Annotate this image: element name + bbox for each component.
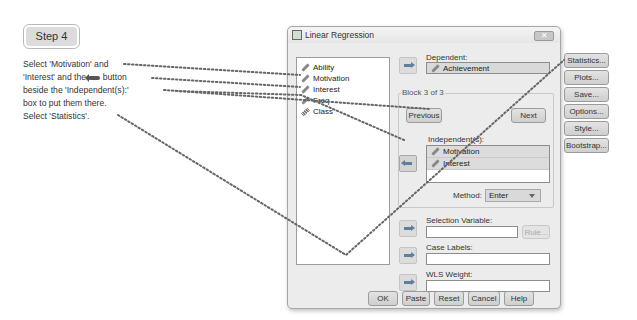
paste-button[interactable]: Paste xyxy=(402,291,430,306)
rule-button[interactable]: Rule... xyxy=(522,225,550,239)
dependent-field[interactable]: Achievement xyxy=(426,62,550,74)
method-select[interactable]: Enter xyxy=(485,189,541,202)
move-to-selection-button[interactable] xyxy=(399,220,417,237)
scale-icon xyxy=(431,64,439,72)
instruction-line-3: beside the 'Independent(s):' xyxy=(23,84,193,97)
scale-icon xyxy=(301,85,309,93)
statistics-button[interactable]: Statistics... xyxy=(564,53,609,68)
scale-icon xyxy=(301,63,309,71)
scale-icon xyxy=(431,147,439,155)
selection-variable-field[interactable] xyxy=(426,226,518,238)
reset-button[interactable]: Reset xyxy=(434,291,464,306)
bootstrap-button[interactable]: Bootstrap... xyxy=(564,138,609,153)
right-arrow-icon xyxy=(404,254,412,257)
instructions: Select 'Motivation' and 'Interest' and t… xyxy=(23,58,193,123)
dialog-title: Linear Regression xyxy=(305,30,374,40)
move-to-dependent-button[interactable] xyxy=(399,57,417,74)
instruction-line-4: box to put them there. xyxy=(23,97,193,110)
variable-item[interactable]: Freq xyxy=(297,95,389,106)
ordinal-icon xyxy=(301,107,310,116)
right-arrow-icon xyxy=(404,281,412,284)
right-arrow-icon xyxy=(404,227,412,230)
step-badge: Step 4 xyxy=(23,24,80,49)
linear-regression-dialog: Linear Regression ✕ Ability Motivation I… xyxy=(287,26,561,309)
instruction-line-5: Select 'Statistics'. xyxy=(23,110,193,123)
instruction-line-1: Select 'Motivation' and xyxy=(23,58,193,71)
plots-button[interactable]: Plots... xyxy=(564,70,609,85)
case-labels-field[interactable] xyxy=(426,253,550,265)
help-button[interactable]: Help xyxy=(504,291,534,306)
close-button[interactable]: ✕ xyxy=(534,31,554,41)
move-to-case-labels-button[interactable] xyxy=(399,247,417,264)
move-to-wls-weight-button[interactable] xyxy=(399,274,417,291)
move-to-independents-button[interactable] xyxy=(399,155,417,172)
wls-weight-label: WLS Weight: xyxy=(426,270,473,279)
variable-item[interactable]: Ability xyxy=(297,62,389,73)
step-label: Step 4 xyxy=(26,27,77,46)
dependent-label: Dependent: xyxy=(426,53,467,62)
independent-item[interactable]: Interest xyxy=(427,158,549,170)
scale-icon xyxy=(431,159,439,167)
regression-app-icon xyxy=(292,30,302,40)
block-legend: Block 3 of 3 xyxy=(401,88,445,97)
independent-item[interactable]: Motivation xyxy=(427,146,549,158)
right-arrow-icon xyxy=(404,64,412,67)
independents-label: Independent(s): xyxy=(428,135,484,144)
variable-item[interactable]: Class xyxy=(297,106,389,117)
style-button[interactable]: Style... xyxy=(564,121,609,136)
method-label: Method: xyxy=(453,191,482,200)
ok-button[interactable]: OK xyxy=(368,291,398,306)
titlebar[interactable]: Linear Regression xyxy=(288,27,560,43)
variable-item[interactable]: Motivation xyxy=(297,73,389,84)
instruction-line-2: 'Interest' and the button xyxy=(23,71,193,84)
left-arrow-icon xyxy=(404,162,412,165)
chevron-down-icon xyxy=(529,194,535,198)
scale-icon xyxy=(301,96,309,104)
variable-item[interactable]: Interest xyxy=(297,84,389,95)
left-arrow-icon xyxy=(88,76,100,80)
case-labels-label: Case Labels: xyxy=(426,243,473,252)
next-button[interactable]: Next xyxy=(511,108,546,123)
options-button[interactable]: Options... xyxy=(564,104,609,119)
cancel-button[interactable]: Cancel xyxy=(468,291,500,306)
selection-variable-label: Selection Variable: xyxy=(426,216,492,225)
variable-list[interactable]: Ability Motivation Interest Freq Class xyxy=(296,57,390,265)
previous-button[interactable]: Previous xyxy=(406,108,442,123)
independents-list[interactable]: Motivation Interest xyxy=(426,145,550,183)
scale-icon xyxy=(301,74,309,82)
save-button[interactable]: Save... xyxy=(564,87,609,102)
